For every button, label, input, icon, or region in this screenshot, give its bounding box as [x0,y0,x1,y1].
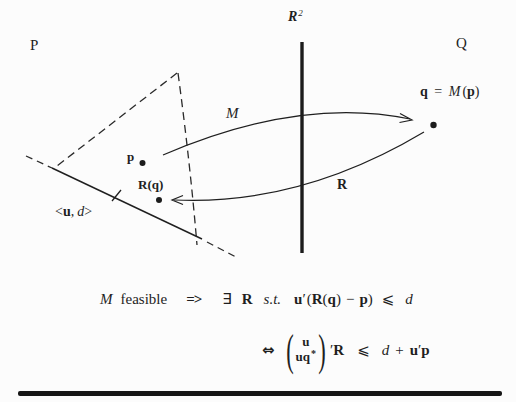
f1-exists-symbol: ∃ [222,290,231,308]
point-q-label: q = M(p) [420,84,480,100]
f1-p: p [359,291,367,308]
f1-m: M [100,291,113,308]
map-r-arrow-curve [174,132,424,200]
f2-row2-star: * [311,348,316,359]
point-rq-label: R(q) [138,177,163,193]
cone-left-dashed-edge [57,73,177,166]
halfspace-langle: < [55,204,63,219]
q-label-equals: = [434,84,442,99]
f1-minus: − [346,291,354,308]
figure-page: P Q R2 M R p R(q) q = M(p) <u,d> M feasi… [0,0,516,402]
diagram-canvas [0,0,516,402]
f2-leq-symbol: ⩽ [357,341,370,359]
halfspace-u: u [63,204,71,219]
f1-leq-symbol: ⩽ [382,290,395,308]
f2-d: d [382,342,390,359]
region-q-label: Q [456,35,467,52]
bottom-rule [18,391,502,396]
formula-equivalence: ⇔ ( u uq* ) ′R ⩽ d + u′p [262,327,430,373]
map-m-arrow-curve [163,113,410,155]
f1-r2: R [312,291,323,308]
q-label-rparen: ) [475,84,480,99]
f1-d: d [405,291,413,308]
cone-right-dashed-edge [178,73,197,245]
f1-rparen: ) [368,291,373,308]
f2-r: R [333,342,344,359]
f2-iff-symbol: ⇔ [262,341,275,359]
f2-left-paren: ( [286,328,294,372]
point-p-label: p [127,149,134,165]
q-label-p: p [467,84,475,99]
point-p-dot [140,160,146,166]
f2-vector-row2: uq* [296,350,316,365]
f2-p: p [421,342,429,359]
f2-plus: + [395,342,403,359]
f1-u: u [294,291,302,308]
f2-right-paren: ) [318,328,326,372]
r2-axis-exponent: 2 [298,8,303,18]
formula-feasibility: M feasible => ∃ R s.t. u′(R(q)−p) ⩽ d [100,290,413,308]
f1-r: R [242,291,253,308]
halfspace-rangle: > [84,204,92,219]
halfspace-dashed-ext-right [207,242,236,257]
halfspace-dashed-ext-left [26,156,52,168]
point-rq-dot [156,197,162,203]
f2-vector-row1: u [302,335,309,350]
f2-u: u [410,342,418,359]
f1-q: q [328,291,336,308]
f2-row2-q: q [303,349,310,364]
f2-stacked-vector: u uq* [295,335,317,365]
r2-axis-letter: R [288,9,297,24]
q-label-m: M [449,84,461,99]
f1-rparen2: ) [336,291,341,308]
r2-axis-label: R2 [288,9,303,25]
f1-st: s.t. [264,291,282,308]
f1-prime: ′ [302,291,305,308]
map-m-label: M [226,105,239,122]
q-label-q: q [420,84,428,99]
point-q-dot [430,122,436,128]
halfspace-comma: , [71,204,75,219]
region-p-label: P [30,37,38,54]
f1-implies: => [186,291,201,308]
f2-row2-u: u [296,349,303,364]
halfspace-label: <u,d> [55,204,92,220]
map-r-label: R [337,177,347,193]
f1-feasible: feasible [121,291,168,308]
